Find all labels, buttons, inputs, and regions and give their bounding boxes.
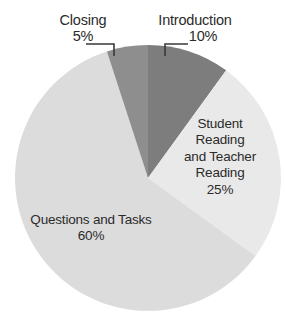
- pie-label-questions-and-tasks-percent: 60%: [8, 228, 174, 244]
- pie-label-student-reading: Student Reading and Teacher Reading 25%: [158, 116, 282, 198]
- pie-label-student-reading-line1: Student: [197, 116, 242, 131]
- pie-label-introduction-percent: 10%: [156, 28, 250, 44]
- pie-label-questions-and-tasks-name: Questions and Tasks: [30, 212, 151, 227]
- pie-label-questions-and-tasks: Questions and Tasks 60%: [8, 212, 174, 244]
- pie-label-student-reading-percent: 25%: [207, 182, 233, 197]
- pie-label-closing: Closing 5%: [40, 12, 126, 44]
- pie-label-introduction-name: Introduction: [158, 12, 231, 28]
- pie-label-closing-percent: 5%: [40, 28, 126, 44]
- pie-label-closing-name: Closing: [60, 12, 107, 28]
- pie-chart: Closing 5% Introduction 10% Student Read…: [0, 0, 285, 328]
- pie-label-student-reading-line3: and Teacher: [184, 149, 256, 164]
- pie-label-student-reading-line4: Reading: [196, 165, 245, 180]
- pie-label-introduction: Introduction 10%: [140, 12, 250, 44]
- pie-label-student-reading-line2: Reading: [196, 132, 245, 147]
